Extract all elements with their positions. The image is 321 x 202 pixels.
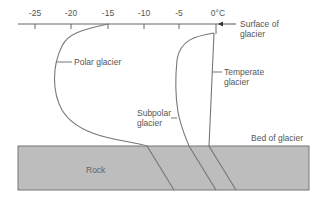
tick-label: -15	[102, 8, 114, 18]
rock-layer	[18, 146, 309, 190]
temperate-glacier-label: Temperate glacier	[224, 67, 264, 87]
tick-label: -5	[175, 8, 183, 18]
tick-label: 0°C	[211, 8, 225, 18]
bed-label: Bed of glacier	[251, 133, 303, 143]
tick-label: -10	[138, 8, 150, 18]
surface-label: Surface of glacier	[240, 19, 279, 39]
tick-label: -25	[29, 8, 41, 18]
polar-glacier-label: Polar glacier	[74, 57, 121, 67]
tick-label: -20	[65, 8, 77, 18]
rock-label: Rock	[86, 165, 105, 175]
surface-arrow-icon	[218, 22, 223, 27]
subpolar-glacier-label: Subpolar glacier	[137, 108, 171, 128]
